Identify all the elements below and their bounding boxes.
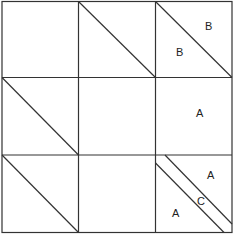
diagonal-r2c0: [2, 155, 79, 233]
label-r0c2-upper: B: [205, 20, 212, 32]
label-r2c2-strip: C: [197, 195, 205, 207]
diagonal-r0c2: [156, 2, 233, 78]
quilt-block-diagram: B B A A C A: [0, 0, 234, 237]
label-r1c2-center: A: [196, 107, 204, 119]
label-r2c2-lower: A: [172, 207, 180, 219]
label-r0c2-lower: B: [176, 46, 183, 58]
diagonal-r1c0: [2, 78, 79, 156]
label-r2c2-upper: A: [207, 169, 215, 181]
diagonal-r0c1: [79, 2, 156, 78]
